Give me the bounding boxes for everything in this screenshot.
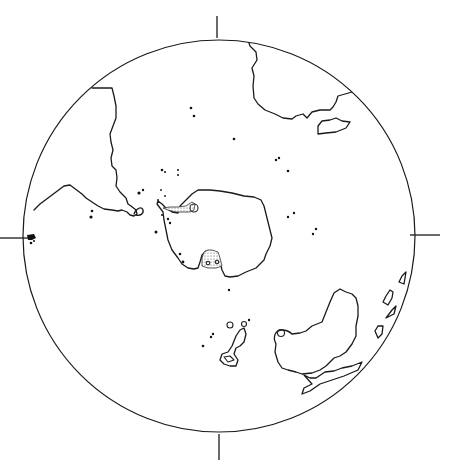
continent-upper-left: [34, 88, 137, 216]
lower-right-landmass: [274, 289, 358, 374]
right-edge-island: [383, 290, 393, 305]
island-upper-right: [318, 118, 350, 134]
right-edge-island: [399, 272, 406, 284]
south-island-chain-inner: [224, 356, 234, 362]
left-edge-islands: [27, 234, 36, 244]
scattered-islets: [89, 107, 317, 348]
right-edge-island: [386, 306, 396, 318]
small-islet: [227, 322, 233, 328]
ice-shelf-south: [202, 250, 222, 268]
small-islet: [242, 322, 247, 327]
axis-ticks: [0, 16, 440, 460]
polar-map: [0, 0, 459, 475]
right-edge-island: [375, 326, 383, 338]
lower-right-peninsula: [302, 362, 362, 394]
globe-outline: [23, 40, 415, 432]
continent-upper-right: [248, 40, 366, 119]
